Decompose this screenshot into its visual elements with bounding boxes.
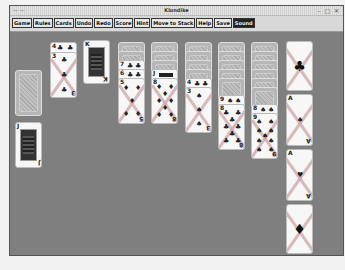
face-card-art: [20, 129, 37, 161]
undo-button[interactable]: Undo: [75, 18, 94, 28]
card-5-diamonds[interactable]: 5 ♦ ♦ ♦ ♦ ♦ 5: [118, 78, 145, 124]
card-3-spades[interactable]: 3 ♠ ♠ ♠ 3: [185, 87, 212, 133]
card-rank: 7: [120, 61, 124, 67]
card-rank: 9: [220, 96, 224, 102]
card-rank: 5: [139, 116, 143, 122]
face-card-art: [88, 47, 105, 77]
spade-icon: ♠: [196, 121, 202, 128]
card-rank: 9: [272, 151, 276, 157]
diamond-icon: ♦: [135, 85, 141, 92]
redo-button[interactable]: Redo: [94, 18, 112, 28]
card-rank: A: [306, 193, 311, 199]
window-title: Klondike: [10, 6, 343, 15]
spade-icon: ♠: [268, 128, 274, 135]
spade-icon: ♠: [256, 147, 262, 154]
diamond-icon: ♦: [168, 84, 174, 91]
stock-pile[interactable]: [15, 70, 42, 116]
card-rank: K: [103, 76, 108, 82]
card-8-clubs[interactable]: 8 ♣ ♣ ♣ ♣ ♣ ♣ ♣ ♣ 8: [218, 104, 245, 150]
card-rank: A: [306, 138, 311, 144]
card-waste-3[interactable]: 3 ♣ ♣ ♣ 3: [50, 52, 77, 98]
foundation-diamonds[interactable]: ♦: [286, 204, 313, 254]
diamond-icon: ♦: [287, 222, 312, 236]
maximize-icon[interactable]: □: [324, 7, 331, 14]
club-icon: ♣: [67, 45, 73, 52]
card-8-diamonds[interactable]: 8 ♦ ♦ ♦ ♦ ♦ ♦ ♦ ♦ 8: [151, 78, 178, 124]
card-rank: 3: [206, 125, 210, 131]
hint-button[interactable]: Hint: [134, 18, 150, 28]
card-rank: 4: [187, 79, 191, 85]
diamond-icon: ♦: [123, 85, 129, 92]
spade-icon: ♠: [256, 138, 262, 145]
card-jack-clubs[interactable]: J J: [15, 122, 42, 168]
spade-icon: ♠: [268, 138, 274, 145]
card-rank: 3: [71, 90, 75, 96]
club-icon: ♣: [61, 87, 67, 94]
score-button[interactable]: Score: [114, 18, 134, 28]
card-rank: 6: [120, 70, 124, 76]
club-icon: ♣: [57, 45, 63, 52]
rules-button[interactable]: Rules: [33, 18, 53, 28]
card-rank: 8: [239, 142, 243, 148]
club-icon: ♣: [61, 72, 67, 79]
card-rank: J: [17, 123, 19, 129]
move-to-stack-button[interactable]: Move to Stack: [151, 18, 195, 28]
diamond-icon: ♦: [129, 98, 135, 105]
menu-bar: Game Rules Cards Undo Redo Score Hint Mo…: [12, 18, 255, 28]
card-rank: J: [153, 70, 155, 76]
card-rank: J: [38, 160, 40, 166]
klondike-window: — — Klondike – □ ✕ Game Rules Cards Undo…: [9, 5, 344, 256]
spade-icon: ♠: [196, 107, 202, 114]
diamond-icon: ♦: [156, 112, 162, 119]
help-button[interactable]: Help: [196, 18, 213, 28]
save-button[interactable]: Save: [214, 18, 232, 28]
club-icon: ♣: [235, 110, 241, 117]
card-rank: 8: [253, 105, 257, 111]
sound-button[interactable]: Sound: [233, 18, 255, 28]
cards-button[interactable]: Cards: [54, 18, 74, 28]
foundation-hearts[interactable]: A ♥ A: [286, 149, 313, 201]
spade-icon: ♠: [196, 93, 202, 100]
minimize-icon[interactable]: –: [317, 7, 321, 14]
foundation-spades[interactable]: A ♠ A: [286, 94, 313, 146]
diamond-icon: ♦: [123, 111, 129, 118]
club-icon: ♣: [287, 59, 312, 73]
foundation-clubs[interactable]: ♣: [286, 41, 313, 91]
card-rank: 4: [52, 43, 56, 49]
card-rank: 8: [172, 116, 176, 122]
spade-icon: ♠: [297, 117, 303, 124]
club-icon: ♣: [235, 124, 241, 131]
spade-icon: ♠: [256, 119, 262, 126]
card-9-spades[interactable]: 9 ♠ ♠ ♠ ♠ ♠ ♠ ♠ ♠ ♠ 9: [251, 113, 278, 159]
club-icon: ♣: [61, 57, 67, 64]
club-icon: ♣: [223, 138, 229, 145]
heart-icon: ♥: [297, 172, 303, 179]
game-table: J J 4 ♣ ♣ 3 ♣ ♣ ♣ 3 K K 7 ♣ ♣: [10, 31, 343, 255]
spade-icon: ♠: [268, 119, 274, 126]
game-button[interactable]: Game: [12, 18, 32, 28]
card-waste-king[interactable]: K K: [83, 40, 110, 84]
close-icon[interactable]: ✕: [334, 7, 340, 14]
window-controls: – □ ✕: [317, 7, 340, 14]
title-bar[interactable]: — — Klondike – □ ✕: [10, 6, 343, 16]
face-card-art: [159, 73, 173, 77]
diamond-icon: ♦: [168, 98, 174, 105]
